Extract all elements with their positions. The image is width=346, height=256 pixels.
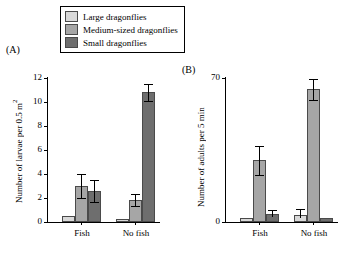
errorbar-b-fish-medium: [259, 146, 260, 175]
errorcap-b-fish-small-top: [268, 210, 277, 211]
errorbar-b-fish-small: [272, 210, 273, 217]
errorcap-b-nofish-medium-bottom: [309, 100, 318, 101]
errorbar-b-nofish-medium: [313, 79, 314, 100]
errorcap-b-fish-medium-bottom: [255, 175, 264, 176]
panel-b-xtick-fish: [259, 222, 260, 225]
panel-b-ytick-0: 0: [204, 216, 220, 226]
panel-b-chart: 0 70 Fish No fish: [0, 0, 346, 256]
panel-b-tickmark-70: [222, 78, 225, 79]
panel-b-ytick-70: 70: [200, 72, 220, 82]
bar-b-fish-large: [240, 218, 253, 222]
errorcap-b-nofish-medium-top: [309, 79, 318, 80]
errorbar-b-nofish-large: [300, 209, 301, 218]
errorcap-b-fish-medium-top: [255, 146, 264, 147]
panel-b-xlabel-fish: Fish: [240, 228, 280, 238]
panel-b-xtick-nofish: [313, 222, 314, 225]
bar-b-nofish-small: [320, 218, 333, 222]
errorcap-b-nofish-large-top: [296, 209, 305, 210]
panel-b-plot: [225, 77, 338, 223]
panel-b-tickmark-0: [222, 222, 225, 223]
bar-b-nofish-medium: [307, 89, 320, 222]
panel-b-xlabel-nofish: No fish: [292, 228, 336, 238]
